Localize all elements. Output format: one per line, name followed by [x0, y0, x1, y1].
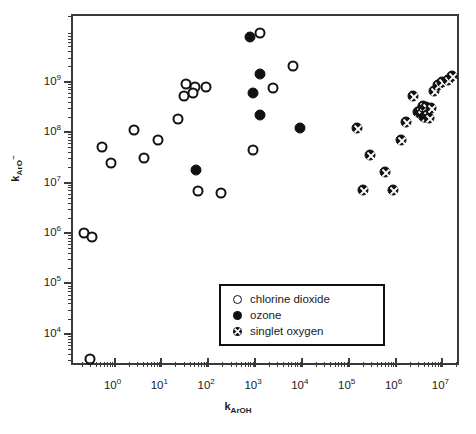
y-axis-tick-minor [68, 288, 73, 289]
x-axis-tick-minor [253, 362, 254, 367]
x-axis-tick-minor [184, 362, 185, 367]
data-point-chlorine-dioxide [173, 114, 184, 125]
y-axis-tick-minor [68, 218, 73, 219]
x-axis-tick-minor [82, 362, 83, 367]
y-axis-tick-minor [68, 310, 73, 311]
x-axis-tick-minor [157, 362, 158, 367]
data-point-chlorine-dioxide [188, 87, 199, 98]
x-axis-tick-minor [388, 362, 389, 367]
x-axis-tick-minor [206, 362, 207, 367]
legend-item-singlet-oxygen: singlet oxygen [228, 323, 376, 339]
data-point-chlorine-dioxide [193, 185, 204, 196]
x-axis-tick-minor [110, 362, 111, 367]
data-point-chlorine-dioxide [86, 232, 97, 243]
x-axis-tick-minor [381, 362, 382, 367]
x-axis-tick-major [254, 358, 256, 367]
y-axis-tick-minor [68, 336, 73, 337]
legend-label: ozone [246, 309, 281, 321]
data-point-singlet-oxygen [351, 123, 362, 134]
y-axis-tick-minor [68, 303, 73, 304]
y-axis-tick-minor [68, 42, 73, 43]
y-axis-tick-label: 106 [15, 224, 61, 238]
data-point-chlorine-dioxide [85, 353, 96, 364]
y-axis-tick-label: 108 [15, 123, 61, 137]
y-axis-tick-label: 107 [15, 174, 61, 188]
x-axis-tick-minor [100, 362, 101, 367]
x-axis-tick-minor [175, 362, 176, 367]
data-point-ozone [254, 109, 265, 120]
x-axis-tick-minor [151, 362, 152, 367]
data-point-ozone [191, 164, 202, 175]
x-axis-tick-minor [154, 362, 155, 367]
x-axis-tick-minor [347, 362, 348, 367]
x-axis-tick-minor [112, 362, 113, 367]
data-point-ozone [255, 69, 266, 80]
y-axis-tick-minor [68, 354, 73, 355]
data-point-singlet-oxygen [357, 185, 368, 196]
y-axis-tick-minor [68, 147, 73, 148]
y-axis-tick-minor [68, 360, 73, 361]
data-point-ozone [245, 32, 256, 43]
data-point-ozone [247, 87, 258, 98]
x-axis-tick-minor [377, 362, 378, 367]
legend-label: singlet oxygen [246, 325, 324, 337]
y-axis-tick-minor [68, 140, 73, 141]
y-axis-tick-minor [68, 58, 73, 59]
x-axis-tick-minor [277, 362, 278, 367]
y-axis-tick-minor [68, 248, 73, 249]
x-axis-tick-minor [250, 362, 251, 367]
y-axis-tick-minor [68, 238, 73, 239]
x-axis-tick-major [301, 358, 303, 367]
y-axis-tick-major [64, 232, 73, 234]
x-axis-tick-minor [341, 362, 342, 367]
y-axis-tick-minor [68, 268, 73, 269]
x-axis-tick-minor [241, 362, 242, 367]
filled-circle-icon [228, 311, 246, 320]
y-axis-tick-minor [68, 134, 73, 135]
y-axis-tick-minor [68, 286, 73, 287]
y-axis-tick-minor [68, 349, 73, 350]
x-axis-tick-minor [129, 362, 130, 367]
y-axis-tick-minor [68, 117, 73, 118]
y-axis-tick-minor [68, 66, 73, 67]
data-point-chlorine-dioxide [216, 187, 227, 198]
x-axis-tick-minor [104, 362, 105, 367]
y-axis-tick-minor [68, 299, 73, 300]
y-axis-tick-minor [68, 143, 73, 144]
x-axis-tick-label: 106 [374, 377, 414, 391]
y-axis-tick-major [64, 81, 73, 83]
data-point-singlet-oxygen [395, 134, 406, 145]
x-axis-tick-minor [295, 362, 296, 367]
x-axis-tick-minor [291, 362, 292, 367]
x-axis-tick-major [160, 358, 162, 367]
data-point-chlorine-dioxide [288, 61, 299, 72]
x-axis-tick-major [348, 358, 350, 367]
x-axis-tick-major [395, 358, 397, 367]
data-point-chlorine-dioxide [247, 144, 258, 155]
x-axis-tick-minor [288, 362, 289, 367]
y-axis-tick-minor [68, 259, 73, 260]
y-axis-tick-minor [68, 209, 73, 210]
y-axis-tick-minor [68, 194, 73, 195]
data-point-singlet-oxygen [408, 90, 419, 101]
y-axis-tick-minor [68, 190, 73, 191]
crossed-circle-icon [228, 327, 246, 336]
data-point-singlet-oxygen [446, 70, 457, 81]
x-axis-tick-minor [363, 362, 364, 367]
legend-item-ozone: ozone [228, 307, 376, 323]
x-axis-tick-minor [283, 362, 284, 367]
x-axis-tick-minor [269, 362, 270, 367]
y-axis-tick-minor [68, 16, 73, 17]
x-axis-tick-minor [428, 362, 429, 367]
data-point-chlorine-dioxide [153, 134, 164, 145]
data-point-chlorine-dioxide [106, 158, 117, 169]
x-axis-tick-minor [300, 362, 301, 367]
data-point-chlorine-dioxide [201, 82, 212, 93]
x-axis-tick-minor [248, 362, 249, 367]
legend-item-chlorine-dioxide: chlorine dioxide [228, 291, 376, 307]
y-axis-tick-major [64, 131, 73, 133]
x-axis-tick-minor [410, 362, 411, 367]
data-point-chlorine-dioxide [255, 28, 266, 39]
x-axis-tick-minor [143, 362, 144, 367]
data-point-chlorine-dioxide [97, 142, 108, 153]
